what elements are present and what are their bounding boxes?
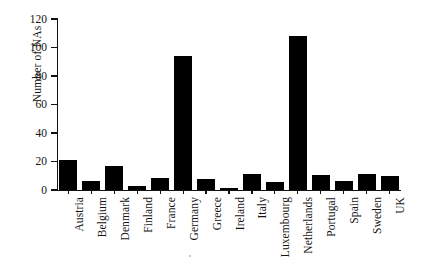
bar-france[interactable] bbox=[151, 178, 169, 190]
x-tick bbox=[114, 190, 115, 194]
bar-spain[interactable] bbox=[335, 181, 353, 190]
bar-austria[interactable] bbox=[59, 160, 77, 190]
plot-area bbox=[57, 19, 401, 190]
x-tick bbox=[343, 190, 344, 194]
x-label-austria: Austria bbox=[73, 197, 85, 232]
x-label-ireland: Ireland bbox=[234, 197, 246, 230]
scan-artifact-dot bbox=[189, 255, 191, 257]
bar-slot bbox=[240, 19, 263, 190]
bar-slot bbox=[332, 19, 355, 190]
bar-slot bbox=[103, 19, 126, 190]
bar-denmark[interactable] bbox=[105, 166, 123, 190]
bar-slot bbox=[263, 19, 286, 190]
bar-slot bbox=[195, 19, 218, 190]
x-label-spain: Spain bbox=[348, 197, 360, 224]
bar-slot bbox=[378, 19, 401, 190]
bar-greece[interactable] bbox=[197, 179, 215, 190]
bar-netherlands[interactable] bbox=[289, 36, 307, 190]
x-tick bbox=[251, 190, 252, 194]
bar-slot bbox=[218, 19, 241, 190]
bar-slot bbox=[80, 19, 103, 190]
x-tick bbox=[228, 190, 229, 194]
x-label-netherlands: Netherlands bbox=[302, 197, 314, 254]
y-tick-label: 60 bbox=[36, 98, 48, 110]
bar-belgium[interactable] bbox=[82, 181, 100, 190]
bar-uk[interactable] bbox=[381, 176, 399, 190]
bar-slot bbox=[126, 19, 149, 190]
x-tick bbox=[297, 190, 298, 194]
x-label-italy: Italy bbox=[256, 197, 268, 219]
x-tick bbox=[137, 190, 138, 194]
x-label-france: France bbox=[165, 197, 177, 229]
y-tick-label: 0 bbox=[41, 184, 47, 196]
x-tick bbox=[320, 190, 321, 194]
x-label-greece: Greece bbox=[211, 197, 223, 230]
x-label-belgium: Belgium bbox=[96, 197, 108, 237]
x-tick bbox=[389, 190, 390, 194]
y-tick-label: 40 bbox=[36, 127, 48, 139]
x-tick bbox=[160, 190, 161, 194]
y-tick-label: 20 bbox=[36, 155, 48, 167]
x-label-portugal: Portugal bbox=[325, 197, 337, 237]
bar-portugal[interactable] bbox=[312, 175, 330, 190]
bar-chart-figure: Number of NAs 020406080100120 AustriaBel… bbox=[0, 0, 423, 267]
x-label-denmark: Denmark bbox=[119, 197, 131, 241]
x-tick bbox=[274, 190, 275, 194]
x-tick bbox=[366, 190, 367, 194]
bar-germany[interactable] bbox=[174, 56, 192, 190]
x-tick bbox=[205, 190, 206, 194]
x-label-sweden: Sweden bbox=[371, 197, 383, 234]
bar-slot bbox=[149, 19, 172, 190]
bar-slot bbox=[355, 19, 378, 190]
x-label-germany: Germany bbox=[188, 197, 200, 241]
x-label-uk: UK bbox=[394, 197, 406, 214]
bar-italy[interactable] bbox=[243, 174, 261, 190]
x-tick bbox=[91, 190, 92, 194]
y-tick-label: 80 bbox=[36, 70, 48, 82]
x-tick bbox=[183, 190, 184, 194]
x-label-finland: Finland bbox=[142, 197, 154, 233]
bar-slot bbox=[309, 19, 332, 190]
x-label-luxembourg: Luxembourg bbox=[279, 197, 291, 257]
bar-sweden[interactable] bbox=[358, 174, 376, 190]
x-tick bbox=[68, 190, 69, 194]
y-tick-label: 100 bbox=[30, 41, 47, 53]
bar-slot bbox=[57, 19, 80, 190]
bar-luxembourg[interactable] bbox=[266, 182, 284, 190]
bar-slot bbox=[172, 19, 195, 190]
y-tick-label: 120 bbox=[30, 13, 47, 25]
bar-slot bbox=[286, 19, 309, 190]
